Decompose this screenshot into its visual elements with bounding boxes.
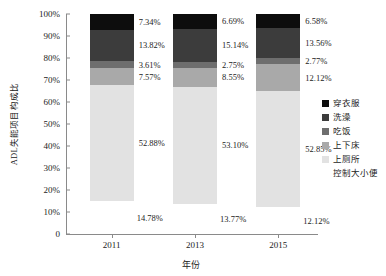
chart-legend: 穿衣服洗澡吃饭上下床上厕所控制大小便 (322, 96, 378, 180)
legend-item[interactable]: 上厕所 (322, 152, 378, 166)
y-axis-tick-mark (66, 14, 70, 15)
bar-segment[interactable] (90, 68, 134, 85)
bar-segment-value-label: 12.12% (305, 73, 331, 83)
bar-segment[interactable] (173, 87, 217, 204)
y-axis-tick-label: 80% (44, 53, 67, 63)
bar-segment[interactable] (256, 207, 300, 234)
bar-segment-value-label: 2.77% (305, 56, 327, 66)
y-axis-tick-mark (66, 212, 70, 213)
legend-item-label: 洗澡 (333, 113, 351, 122)
y-axis-tick-mark (66, 168, 70, 169)
x-axis-title: 年份 (182, 258, 200, 271)
bar-segment-value-label: 7.34% (139, 17, 161, 27)
x-axis-tick-mark (112, 234, 113, 238)
bar-segment-value-label: 13.82% (139, 40, 165, 50)
bar-segment[interactable] (173, 62, 217, 68)
legend-item[interactable]: 上下床 (322, 138, 378, 152)
bar-stack[interactable]: 13.77%53.10%8.55%2.75%15.14%6.69% (173, 14, 217, 234)
bar-stack[interactable]: 12.12%52.85%12.12%2.77%13.56%6.58% (256, 14, 300, 234)
y-axis-tick-label: 0 (56, 229, 67, 239)
y-axis-tick-mark (66, 36, 70, 37)
legend-item-label: 控制大小便 (333, 169, 378, 178)
bar-segment[interactable] (90, 30, 134, 60)
y-axis-tick-mark (66, 124, 70, 125)
y-axis-tick-label: 60% (44, 97, 67, 107)
y-axis-title: ADL失能项目构成比 (7, 64, 19, 184)
bar-segment-value-label: 6.69% (222, 16, 244, 26)
bar-segment-value-label: 3.61% (139, 60, 161, 70)
x-axis-tick-mark (195, 234, 196, 238)
legend-item-label: 上下床 (333, 141, 360, 150)
bar-segment[interactable] (256, 91, 300, 207)
bar-segment-value-label: 53.10% (222, 140, 248, 150)
y-axis-tick-mark (66, 102, 70, 103)
bar-segment[interactable] (173, 68, 217, 87)
y-axis-tick-mark (66, 234, 70, 235)
bar-segment-value-label: 52.88% (139, 138, 165, 148)
legend-swatch-icon (322, 114, 329, 121)
bar-segment[interactable] (256, 58, 300, 64)
legend-item[interactable]: 洗澡 (322, 110, 378, 124)
bar-segment-value-label: 2.75% (222, 60, 244, 70)
bar-segment[interactable] (173, 14, 217, 29)
x-axis-tick-label: 2013 (186, 240, 204, 250)
bar-segment-value-label: 7.57% (139, 72, 161, 82)
bar-segment-value-label: 14.78% (137, 213, 163, 223)
y-axis-tick-label: 20% (44, 185, 67, 195)
y-axis-tick-label: 30% (44, 163, 67, 173)
x-axis-tick-mark (278, 234, 279, 238)
legend-swatch-icon (322, 156, 329, 163)
y-axis-tick-label: 70% (44, 75, 67, 85)
bar-segment[interactable] (90, 14, 134, 30)
legend-item[interactable]: 控制大小便 (322, 166, 378, 180)
y-axis-tick-label: 100% (39, 9, 66, 19)
bar-segment-value-label: 13.56% (305, 38, 331, 48)
y-axis-tick-mark (66, 146, 70, 147)
bar-segment-value-label: 15.14% (222, 40, 248, 50)
legend-item[interactable]: 吃饭 (322, 124, 378, 138)
bar-segment[interactable] (173, 29, 217, 62)
y-axis-tick-mark (66, 80, 70, 81)
y-axis-tick-label: 50% (44, 119, 67, 129)
legend-swatch-icon (322, 142, 329, 149)
y-axis-tick-mark (66, 58, 70, 59)
bar-segment[interactable] (173, 204, 217, 234)
x-axis-tick-label: 2011 (103, 240, 121, 250)
y-axis-tick-label: 90% (44, 31, 67, 41)
y-axis-tick-mark (66, 190, 70, 191)
bar-segment[interactable] (256, 28, 300, 58)
bar-segment-value-label: 13.77% (220, 214, 246, 224)
bar-segment[interactable] (90, 85, 134, 201)
plot-area: 年份 010%20%30%40%50%60%70%80%90%100%20111… (66, 14, 316, 234)
bar-segment-value-label: 8.55% (222, 72, 244, 82)
x-axis-line (66, 234, 318, 235)
bar-segment[interactable] (256, 14, 300, 28)
y-axis-tick-label: 10% (44, 207, 67, 217)
bar-segment[interactable] (256, 64, 300, 91)
bar-stack[interactable]: 14.78%52.88%7.57%3.61%13.82%7.34% (90, 14, 134, 234)
x-axis-tick-label: 2015 (269, 240, 287, 250)
bar-segment[interactable] (90, 61, 134, 69)
legend-swatch-icon (322, 100, 329, 107)
legend-swatch-icon (322, 128, 329, 135)
legend-item[interactable]: 穿衣服 (322, 96, 378, 110)
y-axis-tick-label: 40% (44, 141, 67, 151)
bar-segment-value-label: 6.58% (305, 16, 327, 26)
legend-item-label: 吃饭 (333, 127, 351, 136)
legend-item-label: 穿衣服 (333, 99, 360, 108)
stacked-bar-chart: ADL失能项目构成比 年份 010%20%30%40%50%60%70%80%9… (0, 0, 386, 276)
legend-item-label: 上厕所 (333, 155, 360, 164)
bar-segment-value-label: 12.12% (303, 216, 329, 226)
bar-segment[interactable] (90, 201, 134, 234)
